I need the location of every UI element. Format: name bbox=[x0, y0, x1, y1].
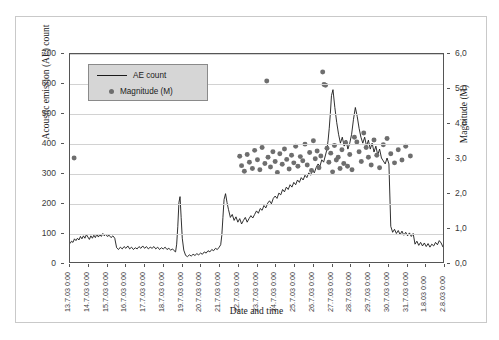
x-tick-mark bbox=[257, 264, 258, 267]
magnitude-point bbox=[408, 153, 413, 158]
magnitude-point bbox=[318, 153, 323, 158]
gridline bbox=[70, 234, 443, 235]
magnitude-point bbox=[262, 161, 267, 166]
y-tick-label: 700 bbox=[42, 48, 56, 58]
magnitude-point bbox=[392, 160, 397, 165]
y-tick-label: 300 bbox=[42, 168, 56, 178]
magnitude-point bbox=[309, 168, 314, 173]
magnitude-point bbox=[277, 151, 282, 156]
magnitude-point bbox=[284, 157, 289, 162]
y2-tick-label: 4,0 bbox=[455, 118, 467, 128]
magnitude-point bbox=[345, 164, 350, 169]
magnitude-point bbox=[326, 160, 331, 165]
x-tick-mark bbox=[388, 264, 389, 267]
magnitude-point bbox=[372, 137, 377, 142]
magnitude-point bbox=[237, 154, 242, 159]
magnitude-point bbox=[336, 155, 341, 160]
magnitude-point bbox=[313, 156, 318, 161]
y2-tick-mark bbox=[447, 228, 450, 229]
y2-tick-label: 6,0 bbox=[455, 48, 467, 58]
magnitude-point bbox=[338, 166, 343, 171]
y2-tick-label: 1,0 bbox=[455, 223, 467, 233]
x-tick-mark bbox=[144, 264, 145, 267]
x-tick-mark bbox=[69, 264, 70, 267]
magnitude-point bbox=[242, 169, 247, 174]
chart-legend: AE count Magnitude (M) bbox=[88, 64, 208, 101]
magnitude-point bbox=[374, 153, 379, 158]
x-tick-mark bbox=[313, 264, 314, 267]
magnitude-point bbox=[328, 151, 333, 156]
x-tick-mark bbox=[88, 264, 89, 267]
x-tick-mark bbox=[444, 264, 445, 267]
y-tick-label: 600 bbox=[42, 78, 56, 88]
magnitude-point bbox=[255, 157, 260, 162]
y-tick-label: 500 bbox=[42, 108, 56, 118]
x-tick-mark bbox=[238, 264, 239, 267]
x-tick-mark bbox=[107, 264, 108, 267]
magnitude-point bbox=[388, 151, 393, 156]
legend-item-ae-count: AE count bbox=[89, 67, 207, 84]
magnitude-point bbox=[307, 150, 312, 155]
magnitude-point bbox=[72, 156, 77, 161]
x-tick-mark bbox=[219, 264, 220, 267]
magnitude-point bbox=[270, 149, 275, 154]
x-tick-mark bbox=[350, 264, 351, 267]
y-tick-mark bbox=[61, 233, 64, 234]
y-tick-mark bbox=[61, 143, 64, 144]
magnitude-point bbox=[280, 162, 285, 167]
magnitude-point bbox=[266, 155, 271, 160]
x-tick-mark bbox=[182, 264, 183, 267]
magnitude-point bbox=[282, 147, 287, 152]
y-axis-left-ticks: 0100200300400500600700 bbox=[16, 53, 64, 263]
x-axis-title: Date and time bbox=[69, 306, 444, 316]
magnitude-point bbox=[350, 167, 355, 172]
y2-tick-mark bbox=[447, 193, 450, 194]
y-tick-mark bbox=[61, 173, 64, 174]
x-tick-mark bbox=[294, 264, 295, 267]
magnitude-point bbox=[247, 160, 252, 165]
plot-wrapper: Acoustic emission (AE) count Magnitude (… bbox=[16, 17, 486, 322]
x-tick-mark bbox=[200, 264, 201, 267]
magnitude-point bbox=[385, 136, 390, 141]
magnitude-point bbox=[257, 167, 262, 172]
magnitude-point bbox=[311, 138, 316, 143]
magnitude-point bbox=[366, 155, 371, 160]
y2-tick-mark bbox=[447, 158, 450, 159]
magnitude-point bbox=[320, 70, 325, 75]
magnitude-point bbox=[298, 154, 303, 159]
magnitude-point bbox=[252, 148, 257, 153]
magnitude-point bbox=[291, 160, 296, 165]
magnitude-point bbox=[250, 166, 255, 171]
y2-tick-mark bbox=[447, 53, 450, 54]
gridline bbox=[70, 54, 443, 55]
y-tick-mark bbox=[61, 263, 64, 264]
x-tick-mark bbox=[332, 264, 333, 267]
magnitude-point bbox=[273, 159, 278, 164]
y2-tick-mark bbox=[447, 263, 450, 264]
gridline bbox=[70, 114, 443, 115]
magnitude-point bbox=[245, 152, 250, 157]
magnitude-point bbox=[325, 146, 330, 151]
x-tick-mark bbox=[163, 264, 164, 267]
y2-tick-label: 0,0 bbox=[455, 258, 467, 268]
magnitude-point bbox=[347, 152, 352, 157]
magnitude-point bbox=[268, 165, 273, 170]
y2-tick-mark bbox=[447, 123, 450, 124]
x-tick-mark bbox=[425, 264, 426, 267]
magnitude-point bbox=[315, 149, 320, 154]
dot-swatch-icon bbox=[109, 89, 114, 94]
magnitude-point bbox=[339, 147, 344, 152]
magnitude-point bbox=[377, 165, 382, 170]
gridline bbox=[70, 174, 443, 175]
x-tick-mark bbox=[275, 264, 276, 267]
magnitude-point bbox=[399, 158, 404, 163]
magnitude-point bbox=[364, 145, 369, 150]
legend-item-magnitude: Magnitude (M) bbox=[89, 83, 207, 100]
magnitude-point bbox=[287, 167, 292, 172]
chart-figure: Acoustic emission (AE) count Magnitude (… bbox=[15, 16, 487, 323]
magnitude-point bbox=[289, 153, 294, 158]
magnitude-point bbox=[305, 162, 310, 167]
y2-tick-mark bbox=[447, 88, 450, 89]
y-tick-mark bbox=[61, 83, 64, 84]
y-tick-label: 0 bbox=[51, 258, 56, 268]
